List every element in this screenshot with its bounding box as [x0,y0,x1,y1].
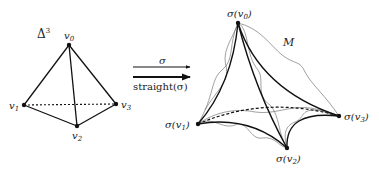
edge-v0-v2 [69,45,77,126]
standard-simplex [24,45,116,126]
label-v0: v0 [64,30,75,43]
label-v3: v3 [121,99,132,112]
label-sv1: σ(v1) [165,119,190,132]
vertex-sv1 [196,122,200,126]
simplex-diagram: Δ3 v0 v1 v2 v3 σ straight(σ) M σ(v0) σ(v… [0,0,379,175]
vertex-v0 [67,43,71,47]
vertex-v2 [75,124,79,128]
vertex-sv0 [236,21,240,25]
label-sv3: σ(v3) [344,111,369,124]
vertex-sv3 [337,114,341,118]
vertex-sv2 [285,146,289,150]
straight-sigma-arrow-label: straight(σ) [133,81,188,92]
label-v1: v1 [9,100,19,113]
vertex-v1 [22,103,26,107]
edge-v1-v2 [24,105,77,126]
simplex-label: Δ3 [37,27,50,41]
sigma-arrow-label: σ [159,55,167,66]
edge-v2-v3 [77,104,116,126]
edge-v0-v3 [69,45,116,104]
label-sv2: σ(v2) [276,153,301,166]
label-sv0: σ(v0) [227,8,252,21]
image-vertices [196,21,341,150]
edge-s23 [287,115,339,148]
vertex-v3 [114,102,118,106]
label-v2: v2 [72,130,83,143]
manifold-label: M [282,36,295,49]
edge-v1-v3-hidden [24,104,116,105]
singular-simplex-wiggly [198,23,339,148]
edge-v0-v1 [24,45,69,105]
edge-s12 [198,122,287,148]
edge-s01 [198,23,238,124]
